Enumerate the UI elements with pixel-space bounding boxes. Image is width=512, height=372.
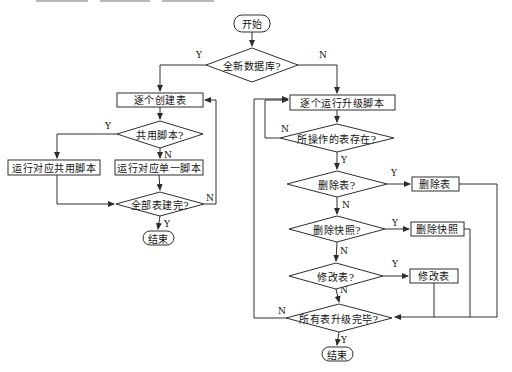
label-tableexists-no: N: [281, 124, 289, 134]
edge-allupgraded-endright-yes: [337, 332, 339, 345]
drop-table-label: 删除表: [419, 178, 451, 190]
node-all-created-decision: 全部表建完?: [116, 192, 204, 216]
drop-snapshot-q-label: 删除快照?: [313, 224, 361, 236]
label-altertableq-yes: Y: [391, 259, 399, 269]
run-upgrade-label: 逐个运行升级脚本: [300, 97, 384, 109]
flowchart-canvas: Y N Y N N Y N Y Y N Y N Y N N Y 开始 全新数据库…: [0, 0, 512, 372]
label-sharedscript-no: N: [164, 150, 172, 160]
alter-table-label: 修改表: [418, 270, 450, 282]
run-shared-label: 运行对应共用脚本: [12, 162, 96, 174]
label-droptableq-yes: Y: [390, 168, 398, 178]
edge-runshared-allcreated: [57, 175, 114, 204]
label-dropsnapshotq-yes: Y: [391, 218, 399, 228]
node-drop-table-decision: 删除表?: [287, 171, 387, 197]
end-left-label: 结束: [148, 233, 169, 245]
edge-altertableq-allupgraded-no: [336, 289, 339, 302]
edge-allcreated-createtables-loop-no: [204, 100, 216, 204]
node-drop-snapshot-decision: 删除快照?: [289, 216, 385, 242]
node-alter-table-action: 修改表: [410, 269, 458, 283]
drop-table-q-label: 删除表?: [318, 179, 355, 191]
label-tableexists-yes: Y: [340, 155, 348, 165]
edge-allcreated-endleft-yes: [158, 216, 160, 229]
edge-droptable-merge: [459, 184, 497, 317]
node-create-tables: 逐个创建表: [117, 93, 203, 107]
label-droptableq-no: N: [342, 200, 350, 210]
node-run-upgrade-scripts: 逐个运行升级脚本: [290, 95, 395, 110]
edge-sharedscript-runshared-yes: [57, 134, 117, 158]
edge-newdb-runupgrade-no: [298, 65, 337, 93]
label-newdb-no: N: [319, 50, 327, 60]
all-upgraded-label: 所有表升级完毕?: [299, 313, 378, 325]
node-alter-table-decision: 修改表?: [289, 263, 383, 289]
edge-runsingle-allcreated: [159, 175, 160, 190]
node-run-shared-script: 运行对应共用脚本: [8, 160, 100, 175]
start-label: 开始: [242, 18, 263, 30]
alter-table-q-label: 修改表?: [317, 271, 354, 283]
node-run-single-script: 运行对应单一脚本: [115, 160, 203, 175]
new-db-label: 全新数据库?: [223, 60, 281, 72]
label-allupgraded-yes: Y: [340, 335, 348, 345]
edge-newdb-createtables-yes: [160, 65, 206, 91]
create-tables-label: 逐个创建表: [134, 94, 187, 106]
label-allcreated-yes: Y: [163, 219, 171, 229]
node-end-left: 结束: [143, 231, 174, 245]
label-sharedscript-yes: Y: [104, 121, 112, 131]
end-right-label: 结束: [327, 349, 348, 361]
node-drop-table-action: 删除表: [412, 177, 459, 191]
edge-dropsnapshotq-altertableq-no: [336, 242, 337, 261]
drop-snapshot-label: 删除快照: [416, 223, 458, 235]
label-newdb-yes: Y: [195, 50, 203, 60]
node-shared-script-decision: 共用脚本?: [117, 121, 203, 148]
run-single-label: 运行对应单一脚本: [117, 162, 201, 174]
node-all-upgraded-decision: 所有表升级完毕?: [286, 304, 392, 332]
node-end-right: 结束: [322, 347, 353, 361]
node-new-db-decision: 全新数据库?: [206, 48, 298, 82]
table-exists-label: 所操作的表存在?: [297, 133, 376, 145]
edge-dropsnapshot-merge: [464, 229, 470, 317]
all-created-label: 全部表建完?: [131, 199, 189, 211]
node-start: 开始: [234, 15, 270, 32]
shared-script-label: 共用脚本?: [136, 129, 184, 141]
node-table-exists-decision: 所操作的表存在?: [280, 124, 394, 152]
flowchart-svg: Y N Y N N Y N Y Y N Y N Y N N Y 开始 全新数据库…: [0, 0, 512, 372]
label-allcreated-no: N: [206, 193, 214, 203]
label-dropsnapshotq-no: N: [340, 246, 348, 256]
node-drop-snapshot-action: 删除快照: [411, 222, 464, 236]
label-allupgraded-no: N: [278, 306, 286, 316]
